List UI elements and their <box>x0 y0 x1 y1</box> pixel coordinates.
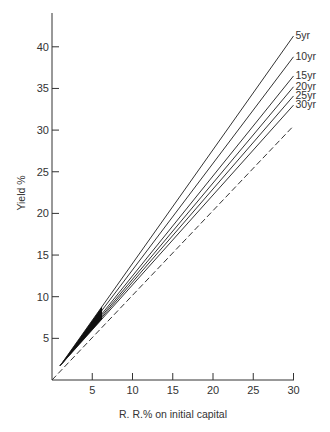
x-axis-ticks: 51015202530 <box>89 373 299 396</box>
x-tick-label: 5 <box>89 384 95 396</box>
series-label: 5yr <box>296 29 311 41</box>
y-tick-label: 5 <box>43 332 49 344</box>
x-axis-title: R. R.% on initial capital <box>119 408 227 420</box>
series-lines <box>52 36 294 380</box>
chart: 510152025303540 51015202530 5yr10yr15yr2… <box>0 0 330 432</box>
axes <box>52 13 294 380</box>
series-label: 30yr <box>296 98 317 110</box>
series-labels: 5yr10yr15yr20yr25yr30yr <box>296 29 317 110</box>
x-tick-label: 15 <box>167 384 179 396</box>
y-axis-title: Yield % <box>15 175 27 210</box>
converging-lines-wedge <box>60 306 102 365</box>
y-tick-label: 15 <box>37 249 49 261</box>
x-tick-label: 25 <box>247 384 259 396</box>
y-tick-label: 30 <box>37 124 49 136</box>
series-line-reference-yield-r-r- <box>52 126 294 380</box>
x-tick-label: 30 <box>287 384 299 396</box>
series-line-5yr <box>60 36 293 366</box>
y-tick-label: 40 <box>37 41 49 53</box>
y-tick-label: 35 <box>37 82 49 94</box>
x-tick-label: 10 <box>126 384 138 396</box>
x-tick-label: 20 <box>207 384 219 396</box>
y-axis-ticks: 510152025303540 <box>37 41 59 345</box>
y-tick-label: 20 <box>37 207 49 219</box>
y-tick-label: 25 <box>37 166 49 178</box>
y-tick-label: 10 <box>37 291 49 303</box>
series-label: 10yr <box>296 50 317 62</box>
